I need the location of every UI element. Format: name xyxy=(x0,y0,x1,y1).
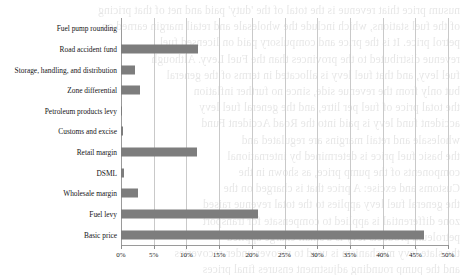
x-tick-label: 35% xyxy=(343,251,356,259)
bar xyxy=(121,168,124,177)
x-tick-label: 50% xyxy=(442,251,455,259)
bar-row: Fuel levy xyxy=(121,204,448,225)
plot-area: Fuel pump roundingRoad accident fundStor… xyxy=(121,18,448,245)
x-tick-mark xyxy=(121,245,122,249)
x-tick-label: 30% xyxy=(311,251,324,259)
x-tick-label: 10% xyxy=(180,251,193,259)
category-label: Petroleum products levy xyxy=(45,106,117,115)
bar-row: Basic price xyxy=(121,224,448,245)
bar-row: Petroleum products levy xyxy=(121,101,448,122)
bar xyxy=(121,106,122,115)
x-tick-mark xyxy=(383,245,384,249)
x-tick-mark xyxy=(448,245,449,249)
bar-row: Customs and excise xyxy=(121,121,448,142)
category-label: Wholesale margin xyxy=(63,189,117,198)
bar xyxy=(121,65,135,74)
bar xyxy=(121,127,123,136)
x-tick-label: 25% xyxy=(278,251,291,259)
x-tick-label: 5% xyxy=(149,251,158,259)
bar xyxy=(121,189,138,198)
x-tick-label: 40% xyxy=(376,251,389,259)
x-tick-mark xyxy=(415,245,416,249)
category-label: Fuel pump rounding xyxy=(57,24,117,33)
x-tick-mark xyxy=(350,245,351,249)
x-tick-label: 45% xyxy=(409,251,422,259)
category-label: Basic price xyxy=(84,230,117,239)
x-tick-label: 0% xyxy=(116,251,125,259)
category-label: Customs and excise xyxy=(58,127,117,136)
category-label: DSML xyxy=(96,168,117,177)
bar xyxy=(121,148,197,157)
bar xyxy=(121,210,258,219)
bar-row: Road accident fund xyxy=(121,39,448,60)
x-tick-mark xyxy=(154,245,155,249)
gridline xyxy=(448,18,449,245)
x-tick-mark xyxy=(186,245,187,249)
bar-row: Fuel pump rounding xyxy=(121,18,448,39)
category-label: Fuel levy xyxy=(89,210,117,219)
bar-row: Wholesale margin xyxy=(121,183,448,204)
bar xyxy=(121,86,140,95)
x-tick-label: 20% xyxy=(245,251,258,259)
category-label: Road accident fund xyxy=(60,44,117,53)
bar-row: Zone differential xyxy=(121,80,448,101)
x-tick-mark xyxy=(317,245,318,249)
bar-row: DSML xyxy=(121,162,448,183)
x-tick-mark xyxy=(252,245,253,249)
x-tick-mark xyxy=(219,245,220,249)
category-label: Zone differential xyxy=(67,86,117,95)
category-label: Retail margin xyxy=(77,148,117,157)
bar xyxy=(121,44,198,53)
x-tick-mark xyxy=(285,245,286,249)
category-label: Storage, handling, and distribution xyxy=(15,65,117,74)
bar-row: Storage, handling, and distribution xyxy=(121,59,448,80)
x-tick-label: 15% xyxy=(213,251,226,259)
bar-row: Retail margin xyxy=(121,142,448,163)
bar xyxy=(121,230,424,239)
